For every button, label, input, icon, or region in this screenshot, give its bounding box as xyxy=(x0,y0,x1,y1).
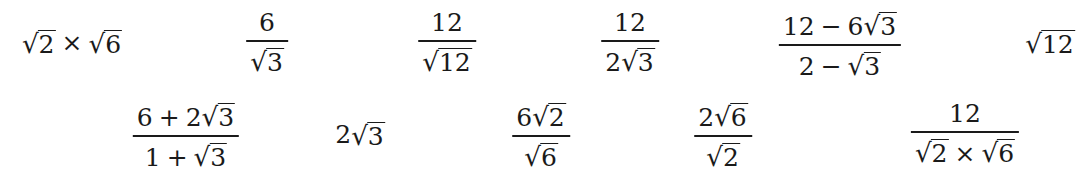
plus-operator: + xyxy=(159,105,180,130)
fraction: 12 √2 × √6 xyxy=(911,101,1019,166)
denominator: √2 xyxy=(702,137,744,170)
denominator: 2 − √3 xyxy=(795,46,886,79)
fraction: 2√6 √2 xyxy=(694,101,752,170)
denominator: 1 + √3 xyxy=(141,137,232,170)
numerator: 12 xyxy=(427,10,467,40)
denominator: √6 xyxy=(520,137,562,170)
expression-6-plus-2sqrt3-over-1-plus-sqrt3: 6 + 2√3 1 + √3 xyxy=(133,101,239,170)
expression-12-over-sqrt12: 12 √12 xyxy=(418,10,476,75)
expression-12-minus-6sqrt3-over-2-minus-sqrt3: 12 − 6√3 2 − √3 xyxy=(779,10,901,79)
expression-sqrt12: √12 xyxy=(1025,28,1075,57)
fraction: 12 − 6√3 2 − √3 xyxy=(779,10,901,79)
expression-sqrt2-times-sqrt6: √2 × √6 xyxy=(22,28,122,57)
denominator: 2√3 xyxy=(601,42,659,75)
numerator: 6 + 2√3 xyxy=(133,101,239,135)
minus-operator: − xyxy=(821,14,842,39)
numerator: 12 xyxy=(945,101,985,131)
radical: √2 xyxy=(22,28,56,57)
plus-operator: + xyxy=(167,145,188,170)
numerator: 6√2 xyxy=(512,101,570,135)
times-operator: × xyxy=(62,30,83,55)
fraction: 12 2√3 xyxy=(601,10,659,75)
numerator: 12 − 6√3 xyxy=(779,10,901,44)
denominator: √2 × √6 xyxy=(911,133,1019,166)
expression-12-over-2sqrt3: 12 2√3 xyxy=(601,10,659,75)
times-operator: × xyxy=(955,141,976,166)
expression-12-over-sqrt2-times-sqrt6: 12 √2 × √6 xyxy=(911,101,1019,166)
numerator: 12 xyxy=(610,10,650,40)
fraction: 12 √12 xyxy=(418,10,476,75)
denominator: √3 xyxy=(246,42,288,75)
numerator: 6 xyxy=(255,10,279,40)
radical: √12 xyxy=(1025,28,1075,57)
radical: √3 xyxy=(351,120,385,149)
expression-6-over-sqrt3: 6 √3 xyxy=(246,10,288,75)
fraction: 6√2 √6 xyxy=(512,101,570,170)
expression-6sqrt2-over-sqrt6: 6√2 √6 xyxy=(512,101,570,170)
fraction: 6 √3 xyxy=(246,10,288,75)
minus-operator: − xyxy=(821,54,842,79)
radical: √6 xyxy=(88,28,122,57)
expression-2sqrt3: 2√3 xyxy=(335,120,385,149)
fraction: 6 + 2√3 1 + √3 xyxy=(133,101,239,170)
numerator: 2√6 xyxy=(694,101,752,135)
denominator: √12 xyxy=(418,42,476,75)
expression-2sqrt6-over-sqrt2: 2√6 √2 xyxy=(694,101,752,170)
